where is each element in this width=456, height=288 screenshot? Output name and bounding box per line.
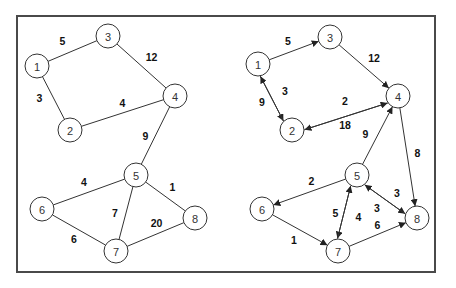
edge-weight-label: 3 xyxy=(282,85,288,97)
directed-edge-line xyxy=(273,215,328,245)
edge-line xyxy=(53,179,124,205)
directed-graph-edge-3-4 xyxy=(339,45,389,88)
edge-weight-label: 2 xyxy=(309,175,315,187)
directed-graph-edge-4-8 xyxy=(400,108,415,206)
directed-graph-node-2: 2 xyxy=(280,118,304,142)
node-label: 7 xyxy=(113,246,119,258)
undirected-graph-edge-5-6 xyxy=(53,179,124,205)
undirected-graph-node-3: 3 xyxy=(96,24,120,48)
edge-weight-label: 5 xyxy=(285,35,291,47)
node-label: 3 xyxy=(327,32,333,44)
edge-weight-label: 4 xyxy=(356,211,362,223)
edge-weight-label: 12 xyxy=(146,51,158,63)
edge-line xyxy=(52,215,105,245)
edge-weight-label: 6 xyxy=(375,219,381,231)
undirected-graph-edge-6-7 xyxy=(52,215,105,245)
directed-graph-node-5: 5 xyxy=(345,163,369,187)
undirected-graph-edge-5-7 xyxy=(119,187,133,240)
node-label: 2 xyxy=(67,125,73,137)
edge-weight-label: 4 xyxy=(120,97,126,109)
edge-weight-label: 9 xyxy=(143,130,149,142)
undirected-graph-edge-1-3 xyxy=(48,41,97,62)
undirected-graph-node-5: 5 xyxy=(124,163,148,187)
edge-weight-label: 4 xyxy=(81,176,87,188)
edge-weight-label: 1 xyxy=(170,181,176,193)
edge-line xyxy=(146,182,186,211)
directed-graph-node-3: 3 xyxy=(318,25,342,49)
node-label: 4 xyxy=(172,91,178,103)
edge-weight-label: 8 xyxy=(415,147,421,159)
node-label: 3 xyxy=(105,31,111,43)
edge-weight-label: 20 xyxy=(151,217,163,229)
directed-graph-node-4: 4 xyxy=(386,84,410,108)
undirected-graph-node-4: 4 xyxy=(163,84,187,108)
edge-weight-label: 3 xyxy=(374,202,380,214)
undirected-graph-node-7: 7 xyxy=(104,239,128,263)
undirected-graph-edge-1-2 xyxy=(42,77,64,120)
undirected-graph-edge-3-4 xyxy=(117,44,166,88)
edge-weight-label: 5 xyxy=(333,207,339,219)
node-label: 7 xyxy=(335,246,341,258)
directed-edge-line xyxy=(400,108,415,206)
edge-weight-label: 18 xyxy=(339,119,351,131)
node-label: 5 xyxy=(133,170,139,182)
undirected-graph-node-2: 2 xyxy=(58,118,82,142)
node-label: 5 xyxy=(354,170,360,182)
directed-graph-edge-6-7 xyxy=(273,215,328,245)
node-label: 6 xyxy=(259,204,265,216)
node-label: 1 xyxy=(255,59,261,71)
edge-line xyxy=(117,44,166,88)
directed-edge-line xyxy=(339,45,389,88)
directed-graph-edge-1-3 xyxy=(269,41,319,60)
node-label: 1 xyxy=(34,61,40,73)
directed-graph-node-1: 1 xyxy=(246,52,270,76)
edge-weight-label: 7 xyxy=(112,207,118,219)
directed-graph-node-7: 7 xyxy=(326,239,350,263)
directed-graph-node-6: 6 xyxy=(250,197,274,221)
node-label: 6 xyxy=(39,204,45,216)
node-label: 2 xyxy=(289,125,295,137)
undirected-graph-node-6: 6 xyxy=(30,197,54,221)
edge-weight-label: 9 xyxy=(363,128,369,140)
edge-weight-label: 3 xyxy=(37,92,43,104)
undirected-graph-node-1: 1 xyxy=(25,54,49,78)
directed-graph-edge-7-5 xyxy=(338,186,351,239)
undirected-graph-node-8: 8 xyxy=(183,206,207,230)
edge-weight-label: 3 xyxy=(394,187,400,199)
edge-weight-label: 5 xyxy=(60,35,66,47)
node-label: 4 xyxy=(395,91,401,103)
undirected-graph-edge-5-8 xyxy=(146,182,186,211)
edge-weight-label: 2 xyxy=(342,95,348,107)
directed-edge-line xyxy=(269,41,319,60)
edge-weight-label: 9 xyxy=(259,96,265,108)
directed-edge-line xyxy=(338,186,351,239)
edge-line xyxy=(42,77,64,120)
edge-weight-label: 12 xyxy=(368,52,380,64)
edge-weight-label: 1 xyxy=(291,234,297,246)
edge-weight-label: 6 xyxy=(71,233,77,245)
node-label: 8 xyxy=(192,213,198,225)
graph-canvas: 53124941762059312218982154336 1234567812… xyxy=(0,0,456,288)
edge-line xyxy=(119,187,133,240)
node-label: 8 xyxy=(414,213,420,225)
directed-graph-node-8: 8 xyxy=(405,206,429,230)
edge-line xyxy=(48,41,97,62)
